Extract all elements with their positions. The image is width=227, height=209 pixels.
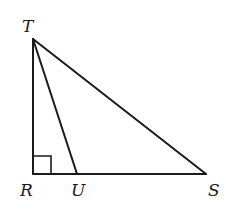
segment-tu [33,39,77,174]
triangle-segments [33,39,206,174]
triangle-diagram: T R U S [0,0,227,209]
vertex-label-r: R [19,180,33,200]
vertex-label-t: T [22,16,35,36]
vertex-label-u: U [71,180,86,200]
right-angle-marker [33,156,51,174]
vertex-label-s: S [208,180,220,200]
segment-ts [33,39,206,174]
